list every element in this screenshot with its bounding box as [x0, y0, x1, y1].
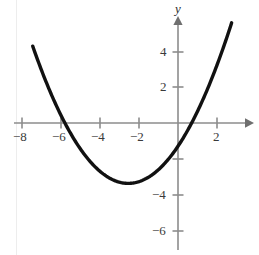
x-tick-label-minus2: −2: [130, 130, 144, 143]
y-tick-label-4: 4: [160, 45, 167, 58]
x-tick-label-minus4: −4: [91, 130, 105, 143]
parabola-curve: [33, 23, 232, 184]
parabola-plot: [0, 0, 259, 255]
y-axis-label: y: [175, 2, 181, 15]
x-axis-arrowhead: [245, 118, 254, 128]
x-tick-label-minus6: −6: [52, 130, 66, 143]
x-tick-label-minus8: −8: [13, 130, 27, 143]
y-tick-label-minus6: −6: [152, 224, 166, 237]
x-tick-label-2: 2: [213, 130, 220, 143]
y-tick-label-2: 2: [160, 80, 167, 93]
y-tick-label-minus4: −4: [152, 188, 166, 201]
y-axis-arrowhead: [173, 16, 182, 25]
graph-figure: −8 −6 −4 −2 2 4 2 −4 −6 y: [0, 0, 259, 255]
